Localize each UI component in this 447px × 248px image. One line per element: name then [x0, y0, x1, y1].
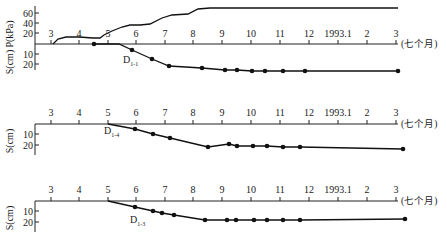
settlement-curve-d1-1: [94, 44, 398, 71]
svg-text:9: 9: [220, 184, 225, 195]
svg-text:2: 2: [365, 107, 370, 118]
svg-text:7: 7: [163, 107, 168, 118]
svg-text:1993.1: 1993.1: [324, 184, 352, 195]
time-ticks-middle: [51, 120, 396, 124]
x-unit-middle: (七个月): [401, 119, 437, 130]
svg-text:6: 6: [134, 107, 139, 118]
svg-text:1993.1: 1993.1: [324, 28, 352, 39]
svg-text:2: 2: [365, 184, 370, 195]
svg-text:1993.1: 1993.1: [324, 107, 352, 118]
settlement-curve-d1-4: [108, 124, 403, 149]
s-tick-20-bottom: 20: [23, 217, 33, 228]
s-tick-20-top: 20: [23, 59, 33, 70]
svg-text:2: 2: [365, 28, 370, 39]
svg-text:3: 3: [394, 184, 399, 195]
settlement-pressure-chart: P(kPa) S(cm) 60 40 20 10 20 3 4 5: [0, 0, 447, 248]
x-unit-bottom: (七个月): [401, 196, 437, 207]
svg-text:7: 7: [163, 184, 168, 195]
svg-text:3: 3: [49, 28, 54, 39]
series-label-d1-3: D1-3: [130, 214, 145, 227]
s-tick-10-middle: 10: [23, 129, 33, 140]
svg-text:3: 3: [49, 107, 54, 118]
svg-text:4: 4: [77, 107, 82, 118]
svg-text:12: 12: [304, 28, 314, 39]
svg-text:10: 10: [246, 28, 256, 39]
series-label-d1-1: D1-1: [123, 54, 138, 67]
svg-text:11: 11: [275, 28, 285, 39]
svg-text:5: 5: [106, 184, 111, 195]
svg-text:12: 12: [304, 107, 314, 118]
svg-text:3: 3: [394, 107, 399, 118]
svg-text:11: 11: [275, 184, 285, 195]
settlement-axis-label-bottom: S(cm): [4, 206, 16, 230]
month-labels-middle: 3 4 5 6 7 8 9 10 11 12 1993.1 2 3: [49, 107, 399, 118]
p-tick-20: 20: [23, 28, 33, 39]
svg-text:4: 4: [77, 184, 82, 195]
bottom-panel: S(cm) 10 20 3 4 5 6 7 8 9 10 11 12 1993.…: [4, 184, 437, 232]
svg-text:10: 10: [246, 184, 256, 195]
top-panel: P(kPa) S(cm) 60 40 20 10 20 3 4 5: [4, 6, 437, 74]
svg-text:9: 9: [220, 28, 225, 39]
settlement-axis-label-middle: S(cm): [4, 129, 16, 153]
s-tick-20-middle: 20: [23, 140, 33, 151]
svg-text:10: 10: [246, 107, 256, 118]
settlement-points-d1-1: [92, 42, 401, 74]
svg-text:8: 8: [191, 107, 196, 118]
s-tick-10-bottom: 10: [23, 206, 33, 217]
time-ticks-bottom: [51, 197, 396, 201]
settlement-axis-label-top: S(cm): [4, 50, 16, 74]
svg-text:12: 12: [304, 184, 314, 195]
svg-text:11: 11: [275, 107, 285, 118]
svg-text:3: 3: [49, 184, 54, 195]
svg-text:6: 6: [134, 28, 139, 39]
svg-text:5: 5: [106, 107, 111, 118]
pressure-axis-label: P(kPa): [4, 20, 16, 47]
middle-panel: S(cm) 10 20 3 4 5 6 7 8 9 10 11 12 1993.…: [4, 107, 437, 155]
svg-text:6: 6: [134, 184, 139, 195]
svg-text:9: 9: [220, 107, 225, 118]
svg-text:7: 7: [163, 28, 168, 39]
svg-text:8: 8: [191, 28, 196, 39]
x-unit-top: (七个月): [401, 39, 437, 50]
series-label-d1-4: D1-4: [104, 125, 119, 138]
month-labels-bottom: 3 4 5 6 7 8 9 10 11 12 1993.1 2 3: [49, 184, 399, 195]
svg-text:8: 8: [191, 184, 196, 195]
svg-text:3: 3: [394, 28, 399, 39]
